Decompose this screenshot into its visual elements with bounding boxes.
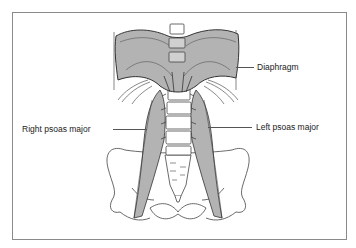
- diaphragm-label: Diaphragm: [257, 62, 299, 72]
- lumbar-spine-icon: [161, 88, 196, 155]
- right-psoas-leader-line: [113, 129, 147, 130]
- diaphragm-leader-line: [236, 67, 254, 68]
- left-psoas-major: [191, 90, 222, 218]
- left-psoas-label: Left psoas major: [256, 122, 319, 132]
- right-psoas-major: [134, 90, 165, 218]
- thoracic-spine-icon: [169, 24, 185, 62]
- left-psoas-leader-line: [208, 127, 252, 128]
- right-psoas-label: Right psoas major: [22, 124, 91, 134]
- sacrum-icon: [165, 155, 191, 202]
